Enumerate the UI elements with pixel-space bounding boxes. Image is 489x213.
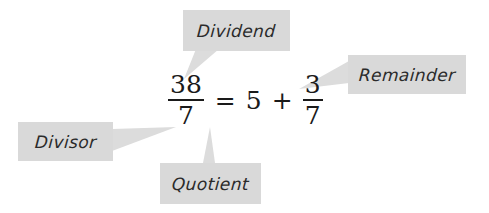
equation: 38 7 = 5 + 3 7: [168, 69, 323, 131]
callout-divisor: Divisor: [18, 122, 113, 161]
remainder-value: 3: [303, 71, 323, 98]
division-terminology-diagram: Dividend Remainder Divisor Quotient 38 7…: [0, 0, 489, 213]
callout-dividend: Dividend: [183, 10, 290, 51]
dividend-value: 38: [168, 71, 204, 98]
callout-dividend-label: Dividend: [196, 21, 276, 41]
equals-sign: =: [204, 88, 246, 113]
callout-quotient-label: Quotient: [171, 174, 249, 194]
callout-divisor-label: Divisor: [34, 132, 97, 152]
callout-remainder-label: Remainder: [358, 65, 456, 85]
plus-sign: +: [262, 88, 303, 113]
fraction-38-over-7: 38 7: [168, 71, 204, 129]
quotient-pointer-icon: [203, 127, 215, 163]
quotient-value: 5: [246, 88, 262, 113]
divisor-value-right: 7: [303, 102, 323, 129]
fraction-3-over-7: 3 7: [303, 71, 323, 129]
divisor-value: 7: [176, 102, 196, 129]
callout-remainder: Remainder: [348, 55, 466, 94]
divisor-pointer-icon: [112, 127, 176, 151]
callout-quotient: Quotient: [160, 163, 261, 204]
